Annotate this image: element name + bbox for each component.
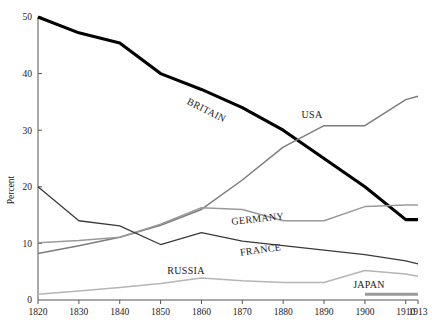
series-label-usa: USA xyxy=(302,109,323,120)
x-tick-label: 1830 xyxy=(69,307,88,317)
x-tick-label: 1820 xyxy=(29,307,48,317)
x-tick-label: 1870 xyxy=(233,307,252,317)
series-label-russia: RUSSIA xyxy=(167,265,205,276)
x-tick-label: 1840 xyxy=(110,307,129,317)
y-tick-label: 0 xyxy=(27,295,32,305)
y-tick-label: 20 xyxy=(23,182,33,192)
series-label-japan: JAPAN xyxy=(353,279,385,290)
manufacturing-share-line-chart: 01020304050 1820183018401850186018701880… xyxy=(0,0,432,325)
x-tick-label: 1890 xyxy=(315,307,334,317)
axis-titles: Percent xyxy=(6,175,16,204)
x-tick-label: 1913 xyxy=(409,307,428,317)
x-tick-label: 1850 xyxy=(151,307,170,317)
x-tick-label: 1880 xyxy=(274,307,293,317)
y-axis-title: Percent xyxy=(6,175,16,204)
x-tick-label: 1860 xyxy=(192,307,211,317)
chart-canvas: 01020304050 1820183018401850186018701880… xyxy=(0,0,432,325)
x-tick-label: 1900 xyxy=(355,307,374,317)
chart-background xyxy=(0,0,432,325)
y-tick-label: 10 xyxy=(23,239,33,249)
y-tick-label: 50 xyxy=(23,12,33,22)
y-tick-label: 30 xyxy=(23,126,33,136)
y-tick-label: 40 xyxy=(23,69,33,79)
